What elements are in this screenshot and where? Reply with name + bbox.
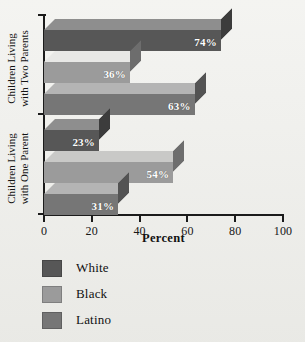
legend-label: White [76, 260, 109, 276]
bar-value-label: 54% [146, 168, 169, 180]
bar-two-parents-latino[interactable]: 63% [44, 94, 195, 115]
plot-area: 0 20 40 60 80 100 74% 36% 63% [44, 14, 283, 214]
category-label-line1: Children Living [5, 133, 17, 204]
x-axis-tick [186, 214, 188, 222]
x-axis-tick [234, 214, 236, 222]
legend: White Black Latino [42, 255, 111, 333]
bar-top-face [44, 83, 206, 94]
legend-swatch-icon [42, 260, 62, 277]
bar-value-label: 63% [168, 100, 191, 112]
bar-one-parent-black[interactable]: 54% [44, 162, 173, 183]
legend-swatch-icon [42, 312, 62, 329]
x-axis-tick [43, 214, 45, 222]
bar-two-parents-black[interactable]: 36% [44, 62, 130, 83]
legend-item-latino[interactable]: Latino [42, 307, 111, 333]
bar-side-face [195, 72, 206, 104]
bar-two-parents-white[interactable]: 74% [44, 30, 221, 51]
category-label-one-parent: Children Living with One Parent [5, 121, 30, 217]
bar-value-label: 31% [91, 200, 114, 212]
category-label-line2: with One Parent [17, 121, 30, 217]
legend-swatch-icon [42, 286, 62, 303]
bar-one-parent-white[interactable]: 23% [44, 130, 99, 151]
x-axis-tick [282, 214, 284, 222]
bar-one-parent-latino[interactable]: 31% [44, 194, 118, 215]
legend-label: Black [76, 286, 107, 302]
bar-top-face [44, 19, 232, 30]
bar-value-label: 36% [103, 68, 126, 80]
bar-side-face [221, 8, 232, 40]
category-label-line1: Children Living [5, 33, 17, 104]
bar-value-label: 23% [72, 136, 95, 148]
legend-item-white[interactable]: White [42, 255, 111, 281]
bar-side-face [173, 140, 184, 172]
chart-figure: Children Living with Two Parents Childre… [0, 0, 305, 342]
y-axis-tick-top [38, 14, 46, 16]
bar-top-face [44, 183, 129, 194]
category-label-two-parents: Children Living with Two Parents [5, 21, 30, 117]
legend-item-black[interactable]: Black [42, 281, 111, 307]
x-axis-title: Percent [44, 231, 283, 246]
category-label-line2: with Two Parents [17, 21, 30, 117]
legend-label: Latino [76, 312, 111, 328]
bar-top-face [44, 151, 184, 162]
x-axis-tick [139, 214, 141, 222]
bar-value-label: 74% [194, 36, 217, 48]
bar-top-face [44, 51, 141, 62]
x-axis-tick [91, 214, 93, 222]
